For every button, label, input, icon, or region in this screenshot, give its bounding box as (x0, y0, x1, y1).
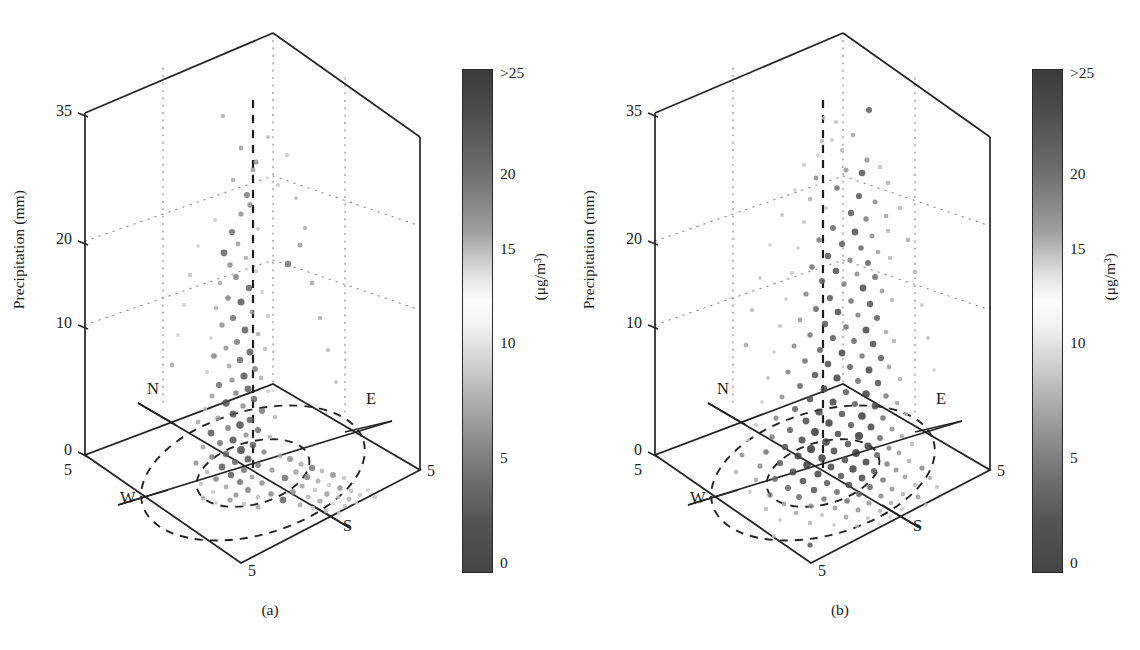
cbar-tick-15-b: 15 (1070, 240, 1086, 258)
y-tick-35-b: 35 (608, 102, 642, 120)
y-tick-20-a: 20 (38, 230, 72, 248)
compass-s-b: S (913, 516, 922, 536)
base-tick-right-a: 5 (427, 462, 451, 480)
y-tick-20-b: 20 (608, 230, 642, 248)
base-plane (655, 384, 990, 563)
colorbar-b (1032, 69, 1063, 573)
cbar-tick-20-b: 20 (1070, 165, 1086, 183)
compass-e-a: E (366, 389, 376, 409)
wind-speed-rings (695, 382, 950, 565)
cbar-tick-5-b: 5 (1070, 449, 1078, 467)
cbar-tick-15-a: 15 (500, 240, 516, 258)
compass-w-a: W (120, 488, 136, 508)
cbar-tick-10-b: 10 (1070, 334, 1086, 352)
base-tick-bottom-b: 5 (818, 562, 842, 580)
y-tick-0-b: 0 (618, 441, 642, 459)
y-axis-ticks (78, 113, 88, 457)
cbar-tick-10-a: 10 (500, 334, 516, 352)
panel-b: Precipitation (mm) 35 20 10 0 5 5 5 N E … (570, 0, 1140, 650)
y-tick-0-a: 0 (48, 441, 72, 459)
compass-w-b: W (690, 488, 706, 508)
compass-s-a: S (343, 516, 352, 536)
cbar-tick-25-a: >25 (500, 64, 524, 82)
cbar-tick-20-a: 20 (500, 165, 516, 183)
figure-root: Precipitation (mm) 35 20 10 0 5 5 5 N E … (0, 0, 1140, 650)
y-axis-title-b: Precipitation (mm) (580, 190, 598, 309)
compass-n-a: N (147, 379, 159, 399)
cbar-unit-a: (μg/m³) (531, 253, 549, 300)
base-tick-right-b: 5 (997, 462, 1021, 480)
y-tick-35-a: 35 (38, 102, 72, 120)
compass-e-b: E (936, 389, 946, 409)
panel-a: Precipitation (mm) 35 20 10 0 5 5 5 N E … (0, 0, 570, 650)
y-axis-title-a: Precipitation (mm) (10, 190, 28, 309)
base-tick-bottom-a: 5 (248, 562, 272, 580)
base-tick-left-a: 5 (48, 461, 72, 479)
y-tick-10-a: 10 (38, 314, 72, 332)
cbar-tick-0-a: 0 (500, 554, 508, 572)
cbar-tick-25-b: >25 (1070, 64, 1094, 82)
wind-speed-rings (125, 382, 380, 565)
cbar-unit-b: (μg/m³) (1101, 253, 1119, 300)
base-plane (85, 384, 420, 563)
cbar-tick-0-b: 0 (1070, 554, 1078, 572)
colorbar-a (462, 69, 493, 573)
compass-n-b: N (717, 379, 729, 399)
y-tick-10-b: 10 (608, 314, 642, 332)
panel-caption-b: (b) (810, 601, 870, 619)
cbar-tick-5-a: 5 (500, 449, 508, 467)
base-tick-left-b: 5 (618, 461, 642, 479)
panel-caption-a: (a) (240, 601, 300, 619)
y-axis-ticks (648, 113, 658, 457)
